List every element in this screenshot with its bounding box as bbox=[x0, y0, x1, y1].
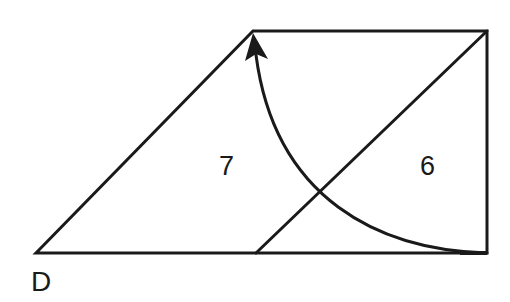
label-region-7: 7 bbox=[219, 153, 234, 180]
outer-trapezoid bbox=[36, 31, 487, 253]
label-vertex-d: D bbox=[31, 268, 51, 296]
rotation-arc bbox=[256, 55, 487, 253]
inner-diagonal bbox=[256, 31, 487, 253]
label-region-6: 6 bbox=[420, 153, 435, 180]
